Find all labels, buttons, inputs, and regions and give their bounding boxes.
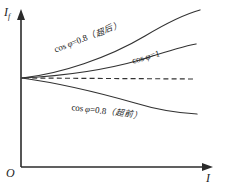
x-axis-label: I	[206, 172, 210, 184]
curve-lagging	[22, 10, 200, 78]
curve-unity	[22, 44, 196, 78]
origin-label: O	[6, 167, 15, 179]
x-axis-arrow-icon	[202, 163, 213, 171]
v-curve-figure: If I O cos φ=0.8（超后） cos φ=1 cos φ=0.8（超…	[0, 0, 225, 193]
y-axis-label: If	[4, 6, 10, 21]
y-axis-arrow-icon	[17, 9, 25, 20]
curve-reference-dashed	[24, 78, 196, 79]
